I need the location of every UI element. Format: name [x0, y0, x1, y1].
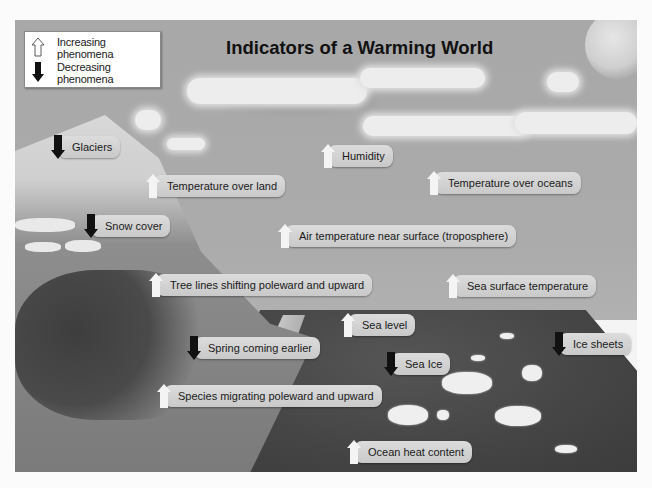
down-arrow-icon [50, 134, 66, 160]
down-arrow-icon [83, 213, 99, 239]
down-arrow-icon [31, 61, 45, 85]
legend-label: Decreasing phenomena [57, 61, 160, 85]
indicator-temperature-over-land: Temperature over land [145, 173, 285, 199]
ice-floe [388, 405, 428, 425]
up-arrow-icon [156, 383, 172, 409]
indicator-sea-ice: Sea Ice [383, 351, 450, 377]
cloud [135, 110, 161, 130]
snow-patch [15, 218, 75, 232]
indicator-label: Sea level [348, 314, 415, 336]
indicator-label: Temperature over oceans [434, 172, 581, 194]
indicator-sea-surface-temperature: Sea surface temperature [445, 273, 596, 299]
up-arrow-icon [346, 439, 362, 465]
legend-item-increasing: Increasing phenomena [31, 36, 160, 60]
down-arrow-icon [383, 351, 399, 377]
indicator-label: Temperature over land [153, 175, 285, 197]
diagram-title: Indicators of a Warming World [226, 37, 493, 59]
cloud [187, 78, 367, 104]
indicator-label: Sea surface temperature [453, 275, 596, 297]
indicator-ocean-heat-content: Ocean heat content [346, 439, 472, 465]
up-arrow-icon [340, 312, 356, 338]
indicator-temperature-over-oceans: Temperature over oceans [426, 170, 581, 196]
cloud [547, 72, 579, 92]
up-arrow-icon [445, 273, 461, 299]
up-arrow-icon [426, 170, 442, 196]
indicator-sea-level: Sea level [340, 312, 415, 338]
indicator-label: Sea Ice [391, 353, 450, 375]
up-arrow-icon [277, 223, 293, 249]
indicator-tree-lines-shifting-poleward-and-upward: Tree lines shifting poleward and upward [148, 272, 372, 298]
indicator-ice-sheets: Ice sheets [551, 331, 631, 357]
indicator-humidity: Humidity [320, 143, 393, 169]
cloud [360, 68, 485, 88]
indicator-label: Air temperature near surface (tropospher… [285, 225, 516, 247]
indicator-label: Ice sheets [559, 333, 631, 355]
up-arrow-icon [320, 143, 336, 169]
up-arrow-icon [31, 37, 45, 59]
cloud [363, 116, 528, 136]
snow-patch [25, 242, 61, 252]
indicator-spring-coming-earlier: Spring coming earlier [186, 335, 320, 361]
indicator-label: Spring coming earlier [194, 337, 320, 359]
down-arrow-icon [186, 335, 202, 361]
indicator-species-migrating-poleward-and-upward: Species migrating poleward and upward [156, 383, 382, 409]
ice-floe [500, 333, 514, 339]
indicator-snow-cover: Snow cover [83, 213, 170, 239]
snow-patch [65, 240, 101, 252]
up-arrow-icon [145, 173, 161, 199]
cloud [167, 138, 205, 150]
legend-item-decreasing: Decreasing phenomena [31, 61, 160, 85]
ice-floe [495, 406, 541, 426]
cloud [515, 112, 637, 134]
ice-floe [471, 355, 485, 361]
indicator-label: Species migrating poleward and upward [164, 385, 382, 407]
ice-floe [437, 410, 449, 420]
legend-label: Increasing phenomena [57, 36, 160, 60]
ice-floe [555, 445, 577, 453]
indicator-label: Glaciers [58, 136, 120, 158]
ice-floe [522, 365, 542, 381]
indicator-label: Snow cover [91, 215, 170, 237]
indicator-label: Tree lines shifting poleward and upward [156, 274, 372, 296]
indicator-air-temperature-near-surface-troposphere: Air temperature near surface (tropospher… [277, 223, 516, 249]
up-arrow-icon [148, 272, 164, 298]
legend: Increasing phenomena Decreasing phenomen… [24, 31, 161, 88]
indicator-label: Ocean heat content [354, 441, 472, 463]
indicator-label: Humidity [328, 145, 393, 167]
down-arrow-icon [551, 331, 567, 357]
indicator-glaciers: Glaciers [50, 134, 120, 160]
sun [585, 20, 637, 80]
